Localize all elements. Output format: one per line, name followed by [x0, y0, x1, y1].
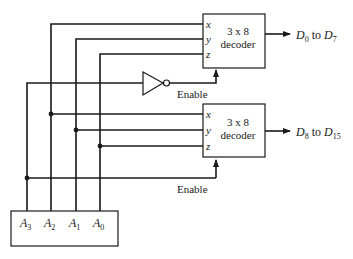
decoder-top-label-1: 3 x 8 [227, 25, 250, 37]
junction-dot [25, 176, 30, 181]
input-z-top: z [205, 48, 211, 60]
input-x-top: x [205, 18, 211, 30]
output-label-bottom: D8 to D15 [295, 125, 341, 141]
enable-label-bottom: Enable [177, 183, 208, 195]
decoder-top-label-2: decoder [221, 38, 256, 50]
junction-dot [74, 128, 79, 133]
input-z-bottom: z [205, 140, 211, 152]
decoder-bottom-label-1: 3 x 8 [227, 116, 250, 128]
junction-dot [98, 144, 103, 149]
decoder-diagram: x y z 3 x 8 decoder Enable D0 to D7 x y … [0, 0, 353, 259]
input-y-top: y [205, 33, 211, 45]
decoder-bottom-label-2: decoder [221, 129, 256, 141]
input-y-bottom: y [205, 124, 211, 136]
output-label-top: D0 to D7 [295, 28, 337, 44]
input-x-bottom: x [205, 108, 211, 120]
enable-label-top: Enable [177, 88, 208, 100]
junction-dot [49, 112, 54, 117]
